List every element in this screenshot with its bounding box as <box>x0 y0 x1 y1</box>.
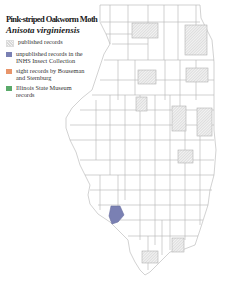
county-published-7 <box>197 108 212 136</box>
legend: published records unpublished records in… <box>6 38 90 101</box>
county-published-3 <box>186 68 208 82</box>
blue-swatch-icon <box>6 52 12 57</box>
county-published-10 <box>142 251 158 263</box>
county-published-4 <box>138 70 156 84</box>
county-published-6 <box>172 106 186 131</box>
county-published-5 <box>136 97 147 111</box>
legend-label: unpublished records in the INHS Insect C… <box>16 50 90 64</box>
legend-item-museum: Illinois State Museum records <box>6 84 90 98</box>
county-published-8 <box>178 150 193 163</box>
county-published-1 <box>132 23 158 38</box>
county-published-2 <box>185 25 207 55</box>
legend-label: published records <box>18 38 63 45</box>
legend-item-sight: sight records by Bouseman and Sternburg <box>6 67 90 81</box>
hatch-swatch-icon <box>6 40 14 47</box>
species-name: Anisota virginiensis <box>6 25 80 35</box>
legend-label: Illinois State Museum records <box>16 84 90 98</box>
county-published-9 <box>172 238 184 252</box>
map-title: Pink-striped Oakworm Moth <box>6 14 97 24</box>
county-unpublished <box>109 206 124 224</box>
legend-item-published: published records <box>6 38 90 47</box>
orange-swatch-icon <box>6 69 12 74</box>
legend-item-unpublished: unpublished records in the INHS Insect C… <box>6 50 90 64</box>
green-swatch-icon <box>6 86 12 91</box>
legend-label: sight records by Bouseman and Sternburg <box>16 67 90 81</box>
